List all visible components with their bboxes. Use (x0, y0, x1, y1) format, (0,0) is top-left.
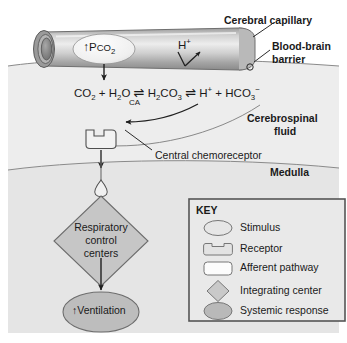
label-cerebral-capillary: Cerebral capillary (224, 15, 312, 27)
pco2-co: CO (97, 42, 111, 53)
label-hydrogen-ion-capillary: H+ (178, 38, 191, 52)
reaction-equation: CO2 + H2O ⇌ H2CO3 ⇌ H+ + HCO3− (74, 86, 260, 103)
reaction-hplus: H (199, 87, 207, 99)
equilibrium-arrow-icon-2: ⇌ (185, 85, 196, 100)
label-blood-brain-barrier-line2: barrier (272, 54, 305, 66)
reaction-hco3-charge: − (255, 85, 260, 94)
reaction-plus-2: + (215, 87, 222, 99)
pco2-p: P (89, 41, 97, 53)
reaction-h2co3-co: CO (160, 87, 177, 99)
reaction-hco3: HCO (225, 87, 251, 99)
legend-label-integrating-center: Integrating center (240, 285, 322, 297)
reaction-hplus-charge: + (208, 85, 213, 94)
label-carbonic-anhydrase: CA (129, 99, 140, 108)
reaction-plus-1: + (99, 87, 106, 99)
pco2-subscript: 2 (111, 47, 115, 56)
legend-box (189, 199, 345, 321)
reaction-hco3-sub: 3 (251, 93, 255, 102)
reaction-h2o-h: H (109, 87, 117, 99)
legend-shape-systemic-response (204, 303, 232, 320)
capillary-right-cap (239, 28, 255, 70)
reaction-co2-sub: 2 (91, 93, 95, 102)
reaction-co2: CO (74, 87, 91, 99)
legend-label-stimulus: Stimulus (240, 222, 280, 234)
label-integrating-center-line3: centers (56, 248, 146, 260)
legend-label-systemic-response: Systemic response (240, 305, 329, 317)
legend-label-afferent-pathway: Afferent pathway (240, 262, 319, 274)
label-central-chemoreceptor: Central chemoreceptor (155, 150, 262, 162)
stimulus-label-pco2: ↑PCO2 (83, 41, 115, 57)
legend-shape-stimulus (204, 221, 232, 236)
ventilation-text: Ventilation (77, 304, 125, 316)
label-blood-brain-barrier-line1: Blood-brain (272, 41, 331, 53)
reaction-h2co3-h: H (148, 87, 156, 99)
label-medulla: Medulla (270, 167, 309, 179)
legend-title: KEY (196, 205, 218, 217)
reaction-h2co3-sub2: 3 (178, 93, 182, 102)
label-integrating-center-line2: control (56, 235, 146, 247)
legend-shape-afferent-pathway (204, 262, 232, 275)
label-integrating-center-line1: Respiratory (56, 222, 146, 234)
cerebral-capillary-vessel (34, 28, 256, 70)
label-cerebrospinal-fluid-line2: fluid (274, 126, 296, 138)
legend-label-receptor: Receptor (240, 243, 283, 255)
label-systemic-response: ↑Ventilation (72, 305, 126, 317)
figure-canvas: Cerebral capillary Blood-brain barrier C… (0, 0, 347, 343)
label-cerebrospinal-fluid-line1: Cerebrospinal (247, 113, 318, 125)
capillary-lumen (41, 38, 51, 60)
h-charge: + (186, 37, 191, 46)
